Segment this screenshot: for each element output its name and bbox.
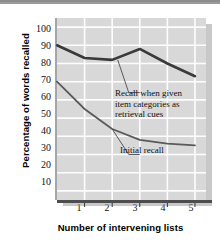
plot-area: [0, 0, 220, 241]
annotation-initial-recall: Initial recall: [120, 145, 212, 156]
chart-figure: Percentage of words recalled Number of i…: [0, 0, 220, 241]
annotation-cued-recall: Recall when given item categories as ret…: [115, 88, 210, 120]
